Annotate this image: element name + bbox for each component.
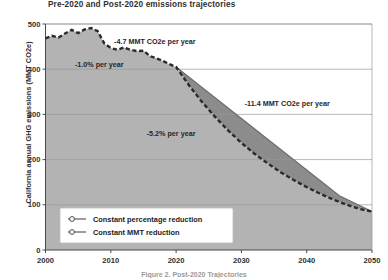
x-tick-label: 2030: [233, 256, 250, 265]
chart-plot-area: 0100200300400500 20002010202020302040205…: [0, 0, 388, 280]
y-tick-label: 100: [28, 200, 41, 209]
annotation-label-1: -4.7 MMT CO2e per year: [114, 37, 196, 46]
x-tick-label: 2020: [168, 256, 185, 265]
legend-label: Constant percentage reduction: [93, 215, 203, 224]
y-tick-label: 0: [36, 246, 40, 255]
y-tick-label: 400: [28, 65, 41, 74]
y-tick-label: 200: [28, 155, 41, 164]
legend-marker-icon: [70, 217, 75, 222]
annotation-label-4: -11.4 MMT CO2e per year: [245, 99, 330, 108]
legend-label: Constant MMT reduction: [93, 228, 180, 237]
annotation-label-3: -5.2% per year: [147, 129, 196, 138]
y-tick-label: 500: [28, 20, 41, 29]
x-tick-labels: 200020102020203020402050: [37, 256, 380, 265]
figure-caption: Figure 2. Post-2020 Trajectories: [0, 271, 388, 278]
figure-container: Pre-2020 and Post-2020 emissions traject…: [0, 0, 388, 280]
y-tick-labels: 0100200300400500: [28, 20, 41, 255]
x-tick-label: 2010: [102, 256, 119, 265]
legend-box: [60, 208, 233, 243]
x-tick-label: 2050: [364, 256, 381, 265]
x-tick-label: 2000: [37, 256, 54, 265]
y-tick-label: 300: [28, 110, 41, 119]
chart-legend: Constant percentage reductionConstant MM…: [60, 208, 233, 243]
legend-marker-icon: [70, 230, 75, 235]
annotation-label-2: -1.0% per year: [75, 60, 124, 69]
x-tick-label: 2040: [298, 256, 315, 265]
